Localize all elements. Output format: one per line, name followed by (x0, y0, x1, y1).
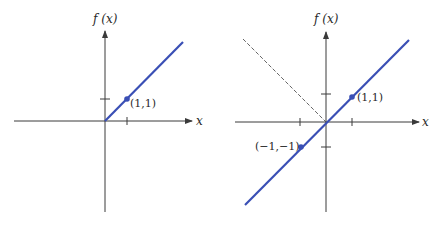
right-point-label-2: (−1,−1) (255, 140, 300, 153)
left-point-label: (1,1) (130, 97, 156, 110)
right-point-1-1 (349, 94, 355, 100)
left-y-axis-label: f (x) (92, 12, 118, 26)
right-y-axis-label: f (x) (313, 12, 339, 26)
right-x-axis-label: x (422, 115, 429, 129)
right-plot: (1,1) (−1,−1) f (x) x (235, 12, 429, 212)
right-point-label-1: (1,1) (357, 91, 383, 104)
right-dashed-line (243, 39, 326, 122)
left-plot: (1,1) f (x) x (14, 12, 203, 212)
left-x-axis-label: x (196, 114, 203, 128)
left-point-1-1 (124, 96, 130, 102)
figure: (1,1) f (x) x (1,1) (−1,−1) f (x) x (0, 0, 438, 225)
